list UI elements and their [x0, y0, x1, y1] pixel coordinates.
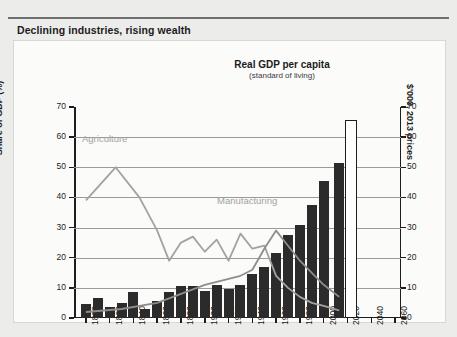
- axis-tick: [347, 318, 349, 323]
- annotation-real-gdp-per-capita: Real GDP per capita (standard of living): [192, 59, 372, 80]
- axis-tick: [85, 318, 87, 323]
- axis-tick: [401, 197, 406, 199]
- y-axis-tick-label: 50: [38, 161, 66, 171]
- y-axis-tick-label: 60: [38, 131, 66, 141]
- axis-tick: [394, 318, 396, 323]
- axis-tick: [275, 318, 277, 323]
- axis-tick: [228, 318, 230, 323]
- page-title: Declining industries, rising wealth: [17, 24, 191, 36]
- axis-tick: [133, 318, 135, 323]
- chart-figure: Declining industries, rising wealth Shar…: [0, 0, 457, 337]
- y-axis-tick-label: 0: [407, 312, 435, 322]
- series-label-manufacturing: Manufacturing: [217, 195, 277, 206]
- axis-tick: [156, 318, 158, 323]
- line-agriculture: [86, 167, 339, 310]
- y-axis-left-title: Share of GDP (%): [0, 81, 4, 155]
- y-axis-tick-label: 50: [407, 161, 435, 171]
- axis-tick: [401, 106, 406, 108]
- axis-tick: [204, 318, 206, 323]
- axis-tick: [323, 318, 325, 323]
- y-axis-tick-label: 60: [407, 131, 435, 141]
- axis-tick: [299, 318, 301, 323]
- series-label-agriculture: Agriculture: [82, 133, 127, 144]
- axis-tick: [252, 318, 254, 323]
- annotation-gdp-title: Real GDP per capita: [192, 59, 372, 70]
- y-axis-tick-label: 70: [407, 101, 435, 111]
- title-divider: [8, 17, 449, 19]
- axis-tick: [371, 318, 373, 323]
- y-axis-tick-label: 30: [38, 222, 66, 232]
- annotation-gdp-subtitle: (standard of living): [192, 71, 372, 80]
- plot-area: 010203040506070 010203040506070 18001820…: [74, 107, 401, 318]
- y-axis-tick-label: 10: [407, 282, 435, 292]
- y-axis-tick-label: 20: [38, 252, 66, 262]
- axis-tick: [401, 287, 406, 289]
- axis-tick: [401, 257, 406, 259]
- axis-tick: [401, 136, 406, 138]
- axis-tick: [401, 227, 406, 229]
- y-axis-tick-label: 30: [407, 222, 435, 232]
- y-axis-tick-label: 40: [407, 191, 435, 201]
- axis-tick: [401, 167, 406, 169]
- y-axis-tick-label: 70: [38, 101, 66, 111]
- y-axis-right-title: $'000, 2013 prices: [405, 84, 415, 160]
- y-axis-tick-label: 0: [38, 312, 66, 322]
- axis-tick: [109, 318, 111, 323]
- y-axis-tick-label: 40: [38, 191, 66, 201]
- y-axis-tick-label: 10: [38, 282, 66, 292]
- axis-tick: [180, 318, 182, 323]
- y-axis-tick-label: 20: [407, 252, 435, 262]
- chart-panel: Share of GDP (%) $'000, 2013 prices Year…: [13, 40, 446, 323]
